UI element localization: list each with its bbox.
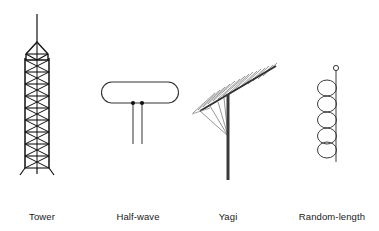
caption-yagi: Yagi — [196, 186, 260, 231]
caption-tower: Tower — [2, 186, 82, 231]
caption-half-wave-dipole: Half-wave Dipole — [98, 186, 178, 231]
caption-tower-line-1: Tower — [2, 211, 82, 224]
yagi-boom — [200, 66, 276, 111]
caption-helical-line-1: Random-length — [286, 211, 378, 224]
tower-base — [20, 168, 54, 175]
figure-half-wave-dipole — [98, 78, 190, 150]
yagi-elements — [193, 63, 277, 113]
dipole-drawing — [98, 78, 190, 150]
caption-random-length-wire: Random-length Wire (Helical) — [286, 186, 378, 231]
antenna-types-diagram: Tower Half-wave Dipole — [0, 0, 379, 231]
dipole-feed-point-left — [131, 101, 135, 105]
caption-yagi-line-1: Yagi — [196, 211, 260, 224]
tower-cap-brace-right — [37, 54, 48, 60]
helical-wire-drawing — [296, 58, 366, 170]
dipole-feed-point-right — [140, 101, 144, 105]
figure-random-length-wire — [296, 58, 366, 170]
figure-yagi — [188, 58, 288, 183]
dipole-folded-loop — [102, 82, 179, 103]
helical-coil-turns — [318, 80, 337, 158]
caption-dipole-line-1: Half-wave — [98, 211, 178, 224]
figure-tower — [8, 8, 78, 180]
helical-top-terminal — [333, 65, 338, 70]
tower-drawing — [8, 8, 78, 180]
yagi-drawing — [188, 58, 288, 183]
tower-cap-brace-left — [26, 54, 37, 60]
